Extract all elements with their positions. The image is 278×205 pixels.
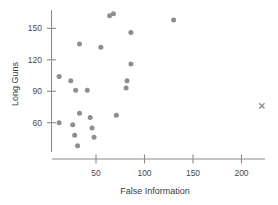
data-point — [77, 111, 82, 116]
plot-area: 50100150200 6090120150 False Information… — [0, 0, 278, 205]
data-point — [57, 120, 62, 125]
data-point — [77, 42, 82, 47]
data-point — [72, 133, 77, 138]
data-point — [92, 135, 97, 140]
data-point — [57, 74, 62, 79]
y-tick-label: 60 — [33, 118, 43, 128]
data-point — [114, 113, 119, 118]
chart-canvas: 50100150200 6090120150 False Information… — [0, 0, 278, 205]
data-point — [75, 143, 80, 148]
data-point — [70, 122, 75, 127]
x-tick-label: 150 — [186, 168, 200, 178]
data-point — [73, 88, 78, 93]
x-tick-label: 100 — [137, 168, 151, 178]
data-point — [128, 30, 133, 35]
data-points — [57, 11, 176, 148]
axes — [52, 10, 266, 159]
x-axis-ticks: 50100150200 — [91, 155, 249, 179]
data-point — [128, 62, 133, 67]
y-tick-label: 120 — [28, 55, 42, 65]
x-markers — [259, 103, 264, 108]
x-tick-label: 200 — [234, 168, 248, 178]
x-marker — [259, 103, 264, 108]
data-point — [98, 45, 103, 50]
data-point — [85, 88, 90, 93]
data-point — [171, 18, 176, 23]
data-point — [88, 115, 93, 120]
data-point — [125, 78, 130, 83]
scatter-chart: 50100150200 6090120150 False Information… — [0, 0, 278, 205]
data-point — [68, 78, 73, 83]
data-point — [124, 86, 129, 91]
x-axis-title: False Information — [120, 186, 190, 196]
x-tick-label: 50 — [91, 168, 101, 178]
data-point — [90, 125, 95, 130]
y-tick-label: 150 — [28, 23, 42, 33]
y-axis-title: Long Guns — [10, 61, 20, 106]
y-tick-label: 90 — [33, 86, 43, 96]
data-point — [111, 11, 116, 16]
